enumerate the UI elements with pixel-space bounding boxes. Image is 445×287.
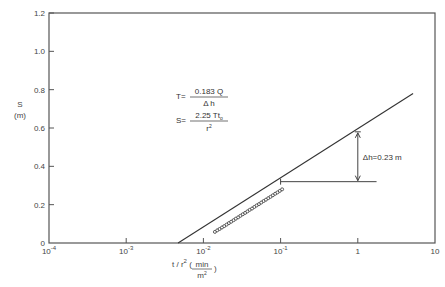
y-tick-label: 1.0 [34,47,46,56]
x-tick-label: 10-2 [196,245,211,256]
y-axis-unit: (m) [14,111,26,120]
data-point [281,188,284,191]
svg-text:T=: T= [176,92,186,101]
y-axis-title: S [17,100,22,109]
x-axis-title: t / r2 ( min m2 ) [172,258,217,280]
x-axis: 10-410-310-210-1110 [42,238,440,256]
svg-text:): ) [214,264,217,273]
y-tick-label: 0.2 [34,201,46,210]
svg-text:r2: r2 [206,123,212,133]
y-tick-label: 0.8 [34,86,46,95]
svg-text:m2: m2 [197,270,207,280]
y-tick-label: 0.6 [34,124,46,133]
svg-text:S=: S= [176,116,186,125]
drawdown-chart: 00.20.40.60.81.01.2 10-410-310-210-1110 … [0,0,445,287]
x-tick-label: 1 [356,247,361,256]
svg-text:t / r2 (: t / r2 ( [172,258,192,269]
svg-text:min: min [196,260,209,269]
x-tick-label: 10-4 [42,245,57,256]
transmissivity-formula: T= 0.183 Q Δ h [176,87,228,108]
x-tick-label: 10 [431,247,440,256]
svg-text:2.25 Tto: 2.25 Tto [195,111,223,121]
plot-frame [49,13,435,243]
svg-text:0.183 Q: 0.183 Q [195,87,223,96]
svg-text:Δ h: Δ h [203,99,215,108]
storativity-formula: S= 2.25 Tto r2 [176,111,228,133]
y-tick-label: 0.4 [34,162,46,171]
delta-h-label: Δh=0.23 m [363,153,402,162]
x-tick-label: 10-1 [273,245,288,256]
x-tick-label: 10-3 [119,245,134,256]
y-tick-label: 1.2 [34,9,46,18]
y-axis: 00.20.40.60.81.01.2 [34,9,54,248]
